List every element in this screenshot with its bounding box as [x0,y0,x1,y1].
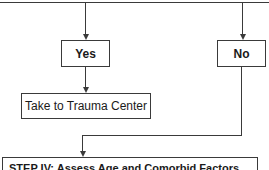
step4-label: STEP IV: Assess Age and Comorbid Factors [9,162,239,170]
trauma-center-node: Take to Trauma Center [21,93,151,119]
yes-node: Yes [61,40,110,67]
no-across-line [82,135,242,136]
no-label: No [234,47,250,61]
yes-to-trauma-line [85,67,86,88]
yes-branch-line [85,2,86,35]
no-down-line [241,67,242,136]
step4-node: STEP IV: Assess Age and Comorbid Factors [2,157,258,170]
yes-label: Yes [75,47,96,61]
top-connector-line [0,2,269,3]
no-node: No [217,40,266,67]
trauma-center-label: Take to Trauma Center [25,99,147,113]
no-branch-line [242,2,243,35]
step4-down-line [82,135,83,152]
